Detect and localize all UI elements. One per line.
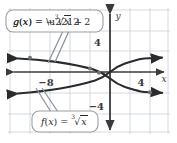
g-constant: 2 <box>84 16 90 27</box>
x-tick-label-4: 4 <box>138 77 145 88</box>
graph-figure: 4 −4 −8 4 y x g(x) = \u2212 g <box>0 0 177 143</box>
g-equals: = <box>35 16 43 27</box>
g-sign: − <box>46 16 54 27</box>
f-radical-index: 3 <box>71 113 75 120</box>
g-callout-expression: g ( x ) = − 3 √x + 2 <box>13 13 105 30</box>
g-paren-close: ) <box>28 16 32 27</box>
g-radical: 3 √x <box>55 16 71 27</box>
f-equals: = <box>60 116 68 127</box>
y-tick-label-neg4: −4 <box>89 101 104 112</box>
g-radicand: x <box>64 15 71 27</box>
f-radical: 3 √x <box>71 116 87 127</box>
g-plus: + <box>74 16 82 27</box>
g-radical-index: 3 <box>55 13 59 20</box>
f-radicand: x <box>80 115 87 127</box>
f-callout-expression: f ( x ) = 3 √x <box>41 114 97 129</box>
y-axis-name: y <box>114 11 121 21</box>
x-tick-label-neg8: −8 <box>38 77 53 88</box>
f-paren-close: ) <box>54 116 58 127</box>
x-axis-name: x <box>161 74 166 84</box>
y-tick-label-4: 4 <box>94 37 101 48</box>
